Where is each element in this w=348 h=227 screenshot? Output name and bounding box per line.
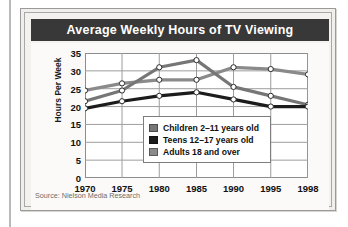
- y-axis-tick: 35: [70, 48, 81, 59]
- page-margin-rule: [9, 0, 11, 227]
- legend-item-adults: Adults 18 and over: [149, 146, 265, 157]
- data-point-marker: [157, 65, 162, 70]
- chart-legend: Children 2–11 years old Teens 12–17 year…: [143, 116, 271, 163]
- data-point-marker: [194, 77, 199, 82]
- data-point-marker: [119, 81, 124, 86]
- x-axis-tick: 1990: [223, 183, 244, 194]
- x-axis-tick: 1980: [149, 183, 170, 194]
- y-axis-tick: 25: [70, 83, 81, 94]
- legend-item-teens: Teens 12–17 years old: [149, 134, 265, 145]
- y-axis-tick: 10: [70, 137, 81, 148]
- data-point-marker: [119, 88, 124, 93]
- data-point-marker: [194, 90, 199, 95]
- data-point-marker: [119, 99, 124, 104]
- y-axis-tick: 15: [70, 119, 81, 130]
- chart-source-note: Source: Nielson Media Research: [35, 191, 140, 200]
- legend-swatch-adults: [149, 148, 158, 156]
- legend-label-children: Children 2–11 years old: [163, 123, 259, 133]
- legend-label-adults: Adults 18 and over: [163, 147, 240, 157]
- page-title: Average Weekly Hours of TV Viewing: [67, 23, 294, 37]
- legend-label-teens: Teens 12–17 years old: [163, 135, 254, 145]
- y-axis-title: Hours Per Week: [53, 47, 63, 133]
- legend-item-children: Children 2–11 years old: [149, 122, 265, 133]
- data-point-marker: [268, 66, 273, 71]
- y-axis-tick: 20: [70, 101, 81, 112]
- data-point-marker: [231, 65, 236, 70]
- data-point-marker: [194, 58, 199, 63]
- chart-card: Average Weekly Hours of TV Viewing Hours…: [20, 8, 336, 211]
- x-axis-tick: 1985: [186, 183, 207, 194]
- data-point-marker: [268, 93, 273, 98]
- data-point-marker: [85, 99, 88, 104]
- data-point-marker: [305, 72, 308, 77]
- data-point-marker: [305, 104, 308, 109]
- x-axis-tick: 1995: [260, 183, 281, 194]
- data-point-marker: [231, 84, 236, 89]
- chart-card-inner: Average Weekly Hours of TV Viewing Hours…: [24, 12, 332, 207]
- data-point-marker: [85, 106, 88, 111]
- y-axis-tick: 30: [70, 65, 81, 76]
- data-point-marker: [268, 104, 273, 109]
- screenshot-root: Average Weekly Hours of TV Viewing Hours…: [0, 0, 348, 227]
- legend-swatch-teens: [149, 136, 158, 144]
- data-point-marker: [85, 88, 88, 93]
- chart-title-bar: Average Weekly Hours of TV Viewing: [31, 19, 329, 41]
- chart-plot-panel: Hours Per Week 0510152025303519701975198…: [31, 43, 329, 210]
- data-point-marker: [231, 97, 236, 102]
- legend-swatch-children: [149, 124, 158, 132]
- y-axis-tick: 5: [76, 155, 81, 166]
- x-axis-tick: 1998: [297, 183, 318, 194]
- y-axis-tick: 0: [76, 173, 81, 184]
- data-point-marker: [157, 93, 162, 98]
- data-point-marker: [157, 77, 162, 82]
